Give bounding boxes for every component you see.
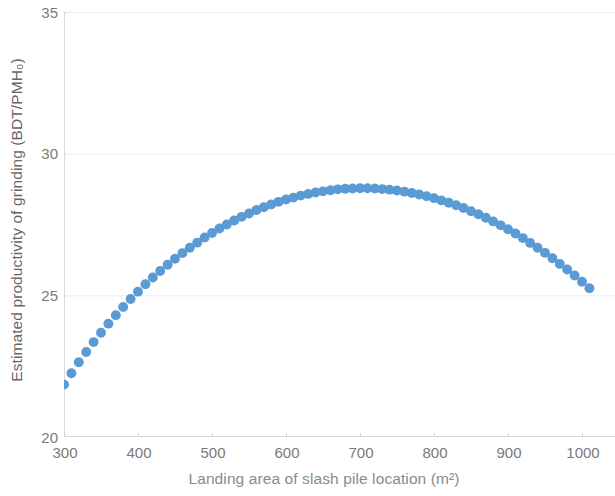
- y-tick-label: 35: [18, 4, 58, 21]
- data-point: [74, 357, 84, 367]
- y-tick-label: 25: [18, 287, 58, 304]
- y-tick-label: 20: [18, 429, 58, 446]
- data-point: [111, 310, 121, 320]
- data-point: [118, 302, 128, 312]
- x-tick-label: 1000: [566, 444, 599, 461]
- data-point: [103, 319, 113, 329]
- x-tick-label: 700: [348, 444, 373, 461]
- data-point: [133, 287, 143, 297]
- data-point: [66, 368, 76, 378]
- data-point: [148, 273, 158, 283]
- x-tick-label: 900: [496, 444, 521, 461]
- y-axis-tick-labels: 35 30 25 20: [10, 0, 58, 438]
- data-point: [126, 294, 136, 304]
- data-point: [64, 380, 69, 390]
- x-tick-label: 400: [126, 444, 151, 461]
- data-point: [81, 347, 91, 357]
- x-tick-label: 800: [422, 444, 447, 461]
- data-point: [140, 279, 150, 289]
- plot-area: [64, 12, 615, 437]
- y-tick-label: 30: [18, 145, 58, 162]
- data-point: [89, 337, 99, 347]
- data-series-markers: [64, 183, 594, 389]
- x-tick-label: 500: [200, 444, 225, 461]
- x-tick-label: 300: [52, 444, 77, 461]
- data-point: [584, 283, 594, 293]
- plot-svg: [64, 12, 615, 437]
- x-axis-tick-labels: 300 400 500 600 700 800 900 1000: [0, 444, 615, 466]
- x-axis-title: Landing area of slash pile location (m²): [64, 470, 584, 488]
- x-tick-label: 600: [274, 444, 299, 461]
- data-point: [96, 328, 106, 338]
- data-point: [577, 277, 587, 287]
- scatter-chart: Estimated productivity of grinding (BDT/…: [0, 0, 615, 496]
